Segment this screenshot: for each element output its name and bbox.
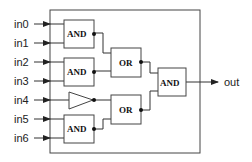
svg-text:OR: OR — [119, 58, 133, 68]
gate-buffer — [69, 92, 96, 109]
input-label-in3: in3 — [14, 75, 29, 87]
output-dot-icon — [139, 108, 143, 112]
svg-text:AND: AND — [67, 124, 87, 134]
input-label-in5: in5 — [14, 113, 29, 125]
svg-text:OR: OR — [119, 105, 133, 115]
svg-text:AND: AND — [67, 29, 87, 39]
gate-and4: AND — [158, 68, 186, 96]
gate-and3: AND — [64, 115, 96, 143]
output-label: out — [224, 76, 239, 88]
logic-circuit-diagram: in0 in1 in2 in3 in4 in5 in6 — [0, 0, 252, 162]
svg-text:AND: AND — [67, 67, 87, 77]
input-label-in2: in2 — [14, 56, 29, 68]
gate-or2: OR — [111, 95, 143, 124]
svg-text:AND: AND — [160, 78, 180, 88]
output-dot-icon — [92, 32, 96, 36]
input-arrows — [34, 24, 50, 138]
output-dot-icon — [92, 98, 96, 102]
gate-and1: AND — [64, 20, 96, 48]
input-label-in1: in1 — [14, 37, 29, 49]
buffer-triangle-icon — [69, 92, 93, 109]
input-label-in0: in0 — [14, 18, 29, 30]
input-label-in4: in4 — [14, 94, 29, 106]
output-dot-icon — [139, 60, 143, 64]
gate-or1: OR — [111, 48, 143, 77]
output-dot-icon — [92, 127, 96, 131]
gate-and2: AND — [64, 58, 96, 86]
output-dot-icon — [92, 70, 96, 74]
input-label-in6: in6 — [14, 132, 29, 144]
